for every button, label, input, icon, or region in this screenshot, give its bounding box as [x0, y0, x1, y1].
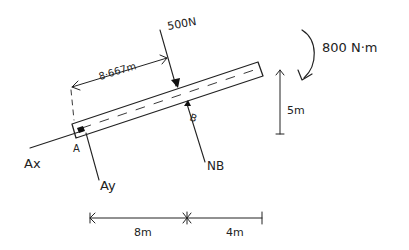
dim-5m-label: 5m	[287, 104, 305, 117]
force-500n-line	[160, 30, 176, 86]
dimension-bottom: 8m 4m	[90, 212, 262, 239]
nb-label: NB	[207, 159, 224, 173]
moment-arc	[302, 30, 314, 78]
ax-label: Ax	[24, 156, 41, 171]
force-500n: 500N	[160, 15, 197, 88]
dimension-8667: 8·667m	[72, 55, 167, 90]
support-b: B NB	[184, 100, 224, 173]
dim-4m-label: 4m	[226, 226, 244, 239]
dim-8667-label: 8·667m	[97, 60, 137, 82]
point-a-label: A	[73, 143, 80, 154]
ay-force-line	[86, 133, 99, 180]
moment-label: 800 N·m	[322, 40, 377, 55]
diagram-svg: 8·667m 500N B NB A Ax Ay 800 N·m 5m 8m 4…	[0, 0, 409, 250]
a-extension-line	[71, 90, 74, 120]
dimension-5m: 5m	[276, 70, 305, 134]
moment-800: 800 N·m	[298, 30, 377, 80]
force-500n-label: 500N	[166, 15, 197, 33]
arrowhead-down-icon	[171, 78, 180, 88]
dim-8m-label: 8m	[134, 226, 152, 239]
free-body-diagram: 8·667m 500N B NB A Ax Ay 800 N·m 5m 8m 4…	[0, 0, 409, 250]
ay-label: Ay	[100, 178, 116, 193]
